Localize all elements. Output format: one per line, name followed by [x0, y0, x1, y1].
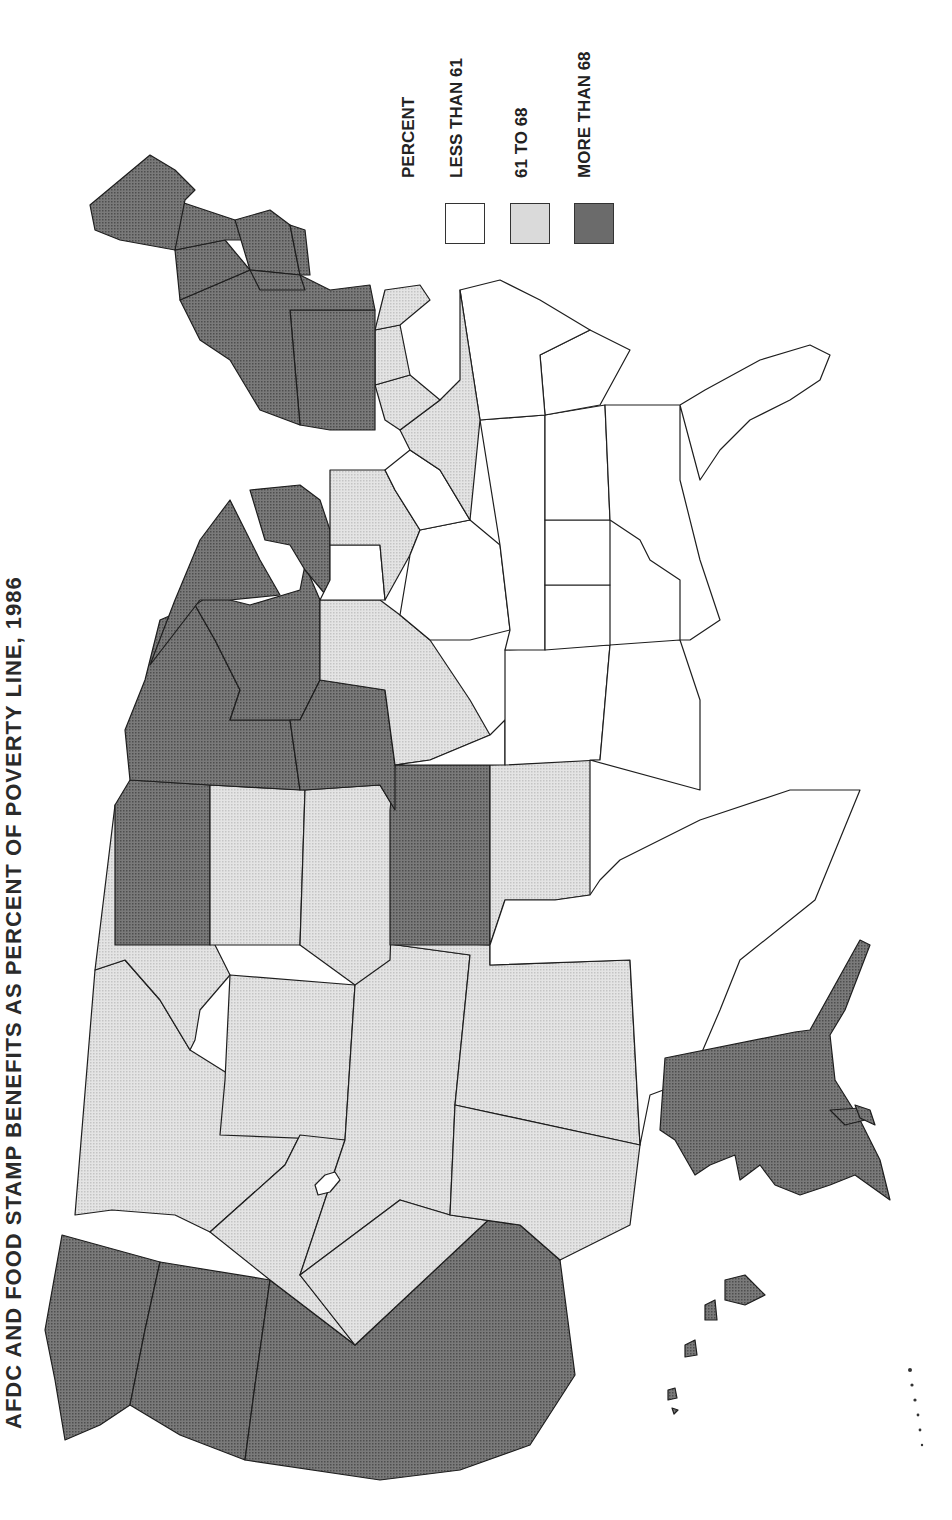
- state-mississippi: [545, 585, 610, 650]
- aleutian-islands: [908, 1368, 923, 1446]
- state-north-dakota: [115, 780, 210, 945]
- state-south-dakota: [210, 785, 305, 945]
- state-kansas: [390, 765, 490, 945]
- state-hawaii-island: [672, 1408, 678, 1414]
- state-pennsylvania: [290, 310, 375, 430]
- state-wyoming: [220, 975, 355, 1140]
- state-hawaii-island: [685, 1340, 697, 1357]
- state-new-jersey: [375, 285, 430, 330]
- state-kentucky: [400, 520, 510, 640]
- state-nebraska: [300, 785, 395, 985]
- state-hawaii: [725, 1275, 765, 1305]
- us-choropleth-map: [0, 0, 952, 1520]
- state-arkansas: [505, 645, 610, 765]
- state-georgia: [545, 405, 610, 520]
- state-delaware: [375, 325, 410, 385]
- state-indiana: [320, 545, 385, 600]
- state-florida: [605, 345, 830, 640]
- state-hawaii-island: [668, 1388, 677, 1400]
- state-alabama: [545, 520, 610, 585]
- state-hawaii-island: [705, 1300, 717, 1320]
